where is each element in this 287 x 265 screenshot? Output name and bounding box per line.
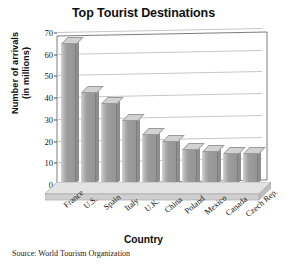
y-tick-label: 20 — [44, 137, 53, 147]
bar — [223, 154, 236, 184]
bar — [162, 142, 175, 184]
y-axis-title-line1: Number of arrivals — [10, 8, 21, 138]
bar-face — [162, 142, 177, 184]
bar — [202, 152, 215, 184]
bar-face — [122, 121, 137, 184]
bar — [243, 154, 256, 184]
plot-area: 010203040506070 — [57, 36, 262, 184]
bar — [122, 121, 135, 184]
bar-top — [122, 114, 144, 121]
y-tick-label: 30 — [44, 115, 53, 125]
bar-top — [101, 97, 123, 104]
bar — [142, 135, 155, 184]
bar — [81, 93, 94, 184]
bar — [101, 104, 114, 184]
y-tick-label: 10 — [44, 158, 53, 168]
bar-face — [61, 44, 76, 184]
bar-top — [182, 143, 204, 150]
source-note: Source: World Tourism Organization — [12, 249, 130, 258]
bar-top — [61, 37, 83, 44]
bar — [182, 150, 195, 184]
bar-top — [81, 86, 103, 93]
bar-top — [243, 147, 265, 154]
bar-face — [182, 150, 197, 184]
bar-face — [202, 152, 217, 184]
y-tick-label: 60 — [44, 50, 53, 60]
bar-top — [202, 145, 224, 152]
y-tick-label: 50 — [44, 71, 53, 81]
y-axis-title: Number of arrivals (in millions) — [10, 8, 36, 138]
bar — [61, 44, 74, 184]
chart-figure: Top Tourist Destinations Number of arriv… — [0, 0, 287, 265]
bar-face — [101, 104, 116, 184]
y-axis-title-line2: (in millions) — [21, 8, 32, 138]
bar-series — [57, 36, 262, 184]
bar-face — [243, 154, 258, 184]
y-tick-label: 40 — [44, 93, 53, 103]
y-tick-mark — [54, 33, 57, 34]
bar-top — [142, 128, 164, 135]
bar-face — [81, 93, 96, 184]
y-tick-label: 70 — [44, 28, 53, 38]
bar-face — [223, 154, 238, 184]
bar-top — [162, 135, 184, 142]
x-axis-title: Country — [0, 234, 287, 245]
bar-face — [142, 135, 157, 184]
chart-floor — [45, 182, 271, 204]
chart-title: Top Tourist Destinations — [0, 6, 287, 20]
